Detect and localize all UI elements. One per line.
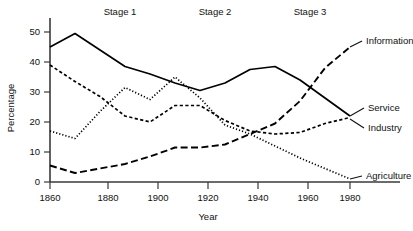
x-tick-label-1880: 1880 [97, 192, 118, 203]
series-line-information [50, 47, 350, 173]
x-tick-label-1940: 1940 [247, 192, 268, 203]
series-line-service [50, 34, 350, 117]
x-tick-label-1960: 1960 [297, 192, 318, 203]
x-tick-label-1980: 1980 [339, 192, 360, 203]
y-tick-label-30: 30 [29, 86, 40, 97]
y-tick-label-10: 10 [29, 146, 40, 157]
series-label-industry: Industry [368, 122, 402, 133]
leader-industry [350, 119, 364, 128]
leader-service [350, 108, 364, 116]
stage-label-1: Stage 1 [104, 6, 137, 17]
y-tick-label-20: 20 [29, 116, 40, 127]
y-axis-title: Percentage [5, 84, 16, 133]
chart-svg: 0 10 20 30 40 50 1860 1880 1900 1920 194… [0, 0, 413, 231]
leader-agriculture [350, 176, 362, 179]
y-tick-marks [44, 32, 50, 182]
x-tick-label-1920: 1920 [197, 192, 218, 203]
leader-information [350, 41, 362, 47]
series-paths [50, 34, 350, 180]
x-tick-label-1900: 1900 [147, 192, 168, 203]
series-label-agriculture: Agriculture [366, 170, 411, 181]
series-line-agriculture [50, 77, 350, 179]
stage-label-3: Stage 3 [294, 6, 327, 17]
x-tick-label-1860: 1860 [39, 192, 60, 203]
line-chart: 0 10 20 30 40 50 1860 1880 1900 1920 194… [0, 0, 413, 231]
stage-label-2: Stage 2 [199, 6, 232, 17]
x-tick-marks [50, 182, 350, 189]
series-label-information: Information [366, 35, 413, 46]
y-tick-label-50: 50 [29, 26, 40, 37]
y-tick-label-0: 0 [35, 176, 40, 187]
x-axis-title: Year [198, 211, 217, 222]
y-tick-label-40: 40 [29, 56, 40, 67]
label-leader-lines [350, 41, 364, 179]
series-line-industry [50, 65, 350, 134]
series-label-service: Service [368, 102, 400, 113]
